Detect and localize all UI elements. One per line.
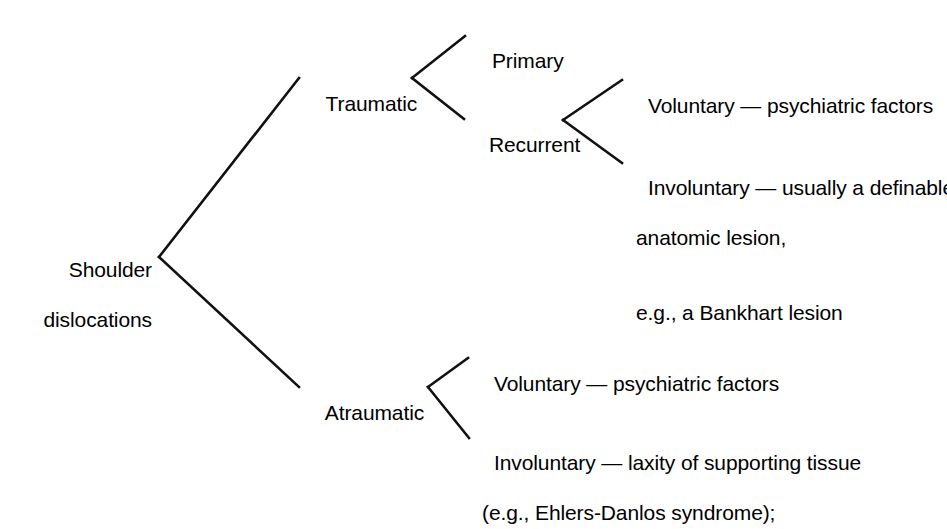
node-shoulder-dislocations-line1: Shoulder	[69, 258, 152, 281]
shoulder-dislocation-tree-diagram: Shoulder dislocations Traumatic Atraumat…	[0, 0, 947, 529]
node-recurrent-voluntary-line1: Voluntary — psychiatric factors	[648, 94, 933, 117]
branch-traumatic-to-recurrent	[412, 78, 464, 119]
node-atraumatic: Atraumatic	[303, 375, 424, 450]
branch-root-to-traumatic	[159, 78, 299, 257]
node-shoulder-dislocations-line2: dislocations	[43, 308, 152, 331]
node-atraumatic-involuntary-line2: (e.g., Ehlers-Danlos syndrome);	[471, 500, 861, 525]
node-recurrent-label: Recurrent	[489, 133, 580, 156]
branch-atraumatic-to-voluntary	[428, 358, 468, 387]
node-primary: Primary	[469, 23, 564, 98]
node-recurrent-involuntary-line3: e.g., a Bankhart lesion	[625, 300, 947, 325]
node-primary-label: Primary	[492, 49, 564, 72]
node-recurrent-voluntary: Voluntary — psychiatric factors	[625, 68, 933, 143]
node-atraumatic-label: Atraumatic	[325, 401, 424, 424]
node-atraumatic-voluntary-line1: Voluntary — psychiatric factors	[494, 372, 779, 395]
node-traumatic-label: Traumatic	[326, 92, 418, 115]
branch-traumatic-to-primary	[412, 36, 465, 78]
node-atraumatic-voluntary: Voluntary — psychiatric factors	[471, 346, 779, 421]
node-recurrent: Recurrent	[466, 107, 580, 182]
node-recurrent-involuntary-line1: Involuntary — usually a definable	[648, 176, 947, 199]
node-traumatic: Traumatic	[303, 66, 417, 141]
node-recurrent-involuntary-line2: anatomic lesion,	[625, 225, 947, 250]
node-atraumatic-involuntary-line1: Involuntary — laxity of supporting tissu…	[494, 451, 861, 474]
node-atraumatic-involuntary: Involuntary — laxity of supporting tissu…	[471, 425, 861, 529]
branch-root-to-atraumatic	[159, 257, 299, 387]
branch-atraumatic-to-involuntary	[428, 387, 469, 438]
node-recurrent-involuntary: Involuntary — usually a definable anatom…	[625, 150, 947, 375]
node-shoulder-dislocations: Shoulder dislocations	[0, 232, 152, 357]
